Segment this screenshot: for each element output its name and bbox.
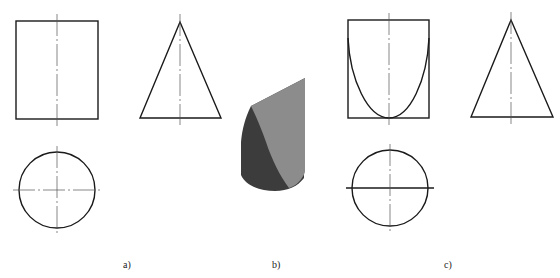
- parabola-curve: [348, 38, 429, 118]
- panel-a-front-view: [16, 14, 98, 126]
- panel-a: [13, 14, 221, 234]
- projection-diagram: [0, 0, 560, 278]
- panel-a-side-view: [140, 14, 221, 125]
- panel-c-side-view: [471, 12, 553, 125]
- panel-a-top-view: [13, 146, 102, 234]
- panel-a-label: a): [123, 259, 131, 270]
- panel-c-top-view: [346, 144, 434, 232]
- panel-c-label: c): [444, 259, 452, 270]
- panel-c: [346, 12, 553, 232]
- panel-b-3d-cut-cylinder: [241, 78, 305, 191]
- panel-c-front-view: [348, 13, 429, 125]
- panel-b-label: b): [272, 259, 280, 270]
